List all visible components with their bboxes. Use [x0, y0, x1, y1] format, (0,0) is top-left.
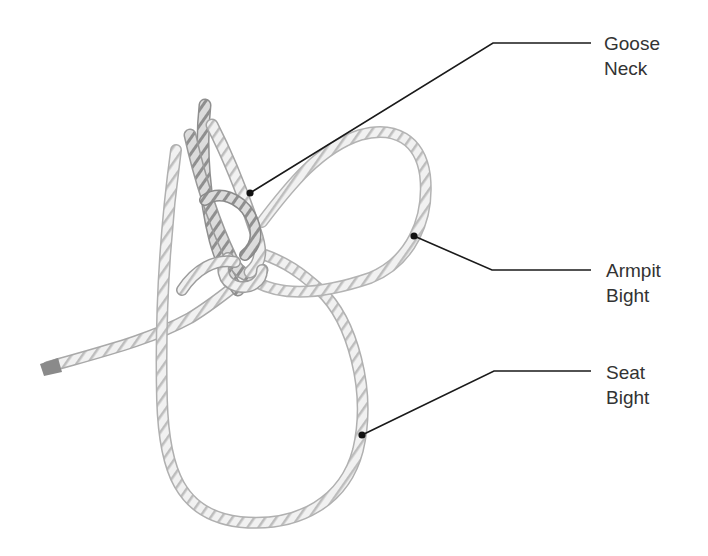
label-seat-bight-line2: Bight	[606, 385, 649, 410]
anchor-dot-armpit-bight	[410, 232, 417, 239]
leader-line-armpit-bight	[414, 236, 591, 270]
label-armpit-bight-line2: Bight	[606, 283, 661, 308]
leader-lines	[250, 43, 591, 435]
rope	[40, 105, 426, 523]
label-armpit-bight: Armpit Bight	[606, 258, 661, 308]
label-seat-bight-line1: Seat	[606, 360, 649, 385]
rope-seat-bight	[162, 150, 363, 523]
label-goose-neck-line2: Neck	[604, 56, 660, 81]
rope-tail	[40, 278, 245, 376]
knot-diagram	[0, 0, 708, 556]
rope-knot-body	[182, 105, 262, 290]
label-goose-neck-line1: Goose	[604, 31, 660, 56]
anchor-dot-goose-neck	[246, 189, 253, 196]
label-armpit-bight-line1: Armpit	[606, 258, 661, 283]
label-goose-neck: Goose Neck	[604, 31, 660, 81]
anchor-dot-seat-bight	[358, 431, 365, 438]
leader-line-seat-bight	[362, 371, 591, 435]
label-seat-bight: Seat Bight	[606, 360, 649, 410]
